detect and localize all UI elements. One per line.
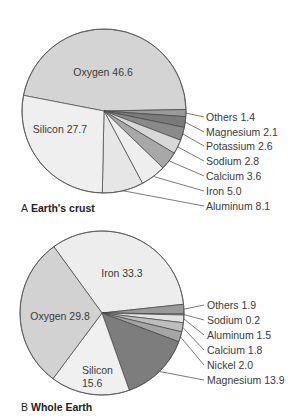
callout-others: Others 1.9: [207, 299, 256, 311]
slice-label-silicon: Silicon: [82, 364, 113, 376]
callout-iron: Iron 5.0: [206, 185, 242, 197]
pie-charts: Oxygen 46.6 Silicon 27.7 Others 1.4 Magn…: [0, 0, 294, 418]
slice-label-silicon: Silicon 27.7: [33, 123, 87, 135]
caption-b-title: Whole Earth: [31, 401, 92, 413]
leader-line-calcium: [183, 327, 204, 350]
caption-a-letter: A: [21, 202, 28, 214]
callout-magnesium: Magnesium 13.9: [207, 374, 285, 386]
pie-chart-earths-crust: [22, 29, 204, 206]
leader-line-aluminum: [123, 191, 204, 206]
leader-line-sodium: [178, 147, 204, 161]
leader-line-others: [186, 113, 204, 117]
leader-line-iron: [153, 176, 204, 191]
leader-line-magnesium: [185, 122, 204, 132]
leader-line-aluminum: [184, 319, 204, 335]
leader-line-nickel: [180, 337, 204, 365]
leader-line-sodium: [184, 315, 204, 320]
callout-potassium: Potassium 2.6: [206, 140, 273, 152]
callout-aluminum: Aluminum 1.5: [207, 329, 271, 341]
callout-sodium: Sodium 2.8: [206, 155, 259, 167]
callout-aluminum: Aluminum 8.1: [206, 200, 270, 212]
leader-line-others: [184, 305, 204, 309]
callout-calcium: Calcium 1.8: [207, 344, 263, 356]
callout-sodium: Sodium 0.2: [207, 314, 260, 326]
callout-calcium: Calcium 3.6: [206, 170, 262, 182]
leader-line-calcium: [169, 161, 204, 176]
leader-line-magnesium: [159, 372, 204, 380]
callout-others: Others 1.4: [206, 111, 255, 123]
caption-a-title: Earth's crust: [31, 202, 95, 214]
pie-slice-silicon: [22, 95, 104, 193]
callout-magnesium: Magnesium 2.1: [206, 126, 278, 138]
slice-label-oxygen: Oxygen 46.6: [73, 66, 133, 78]
slice-label-oxygen: Oxygen 29.8: [30, 310, 90, 322]
callout-nickel: Nickel 2.0: [207, 359, 253, 371]
caption-b-letter: B: [21, 401, 28, 413]
slice-label-silicon-value: 15.6: [82, 377, 103, 389]
leader-line-potassium: [183, 134, 204, 146]
slice-label-iron: Iron 33.3: [101, 267, 143, 279]
